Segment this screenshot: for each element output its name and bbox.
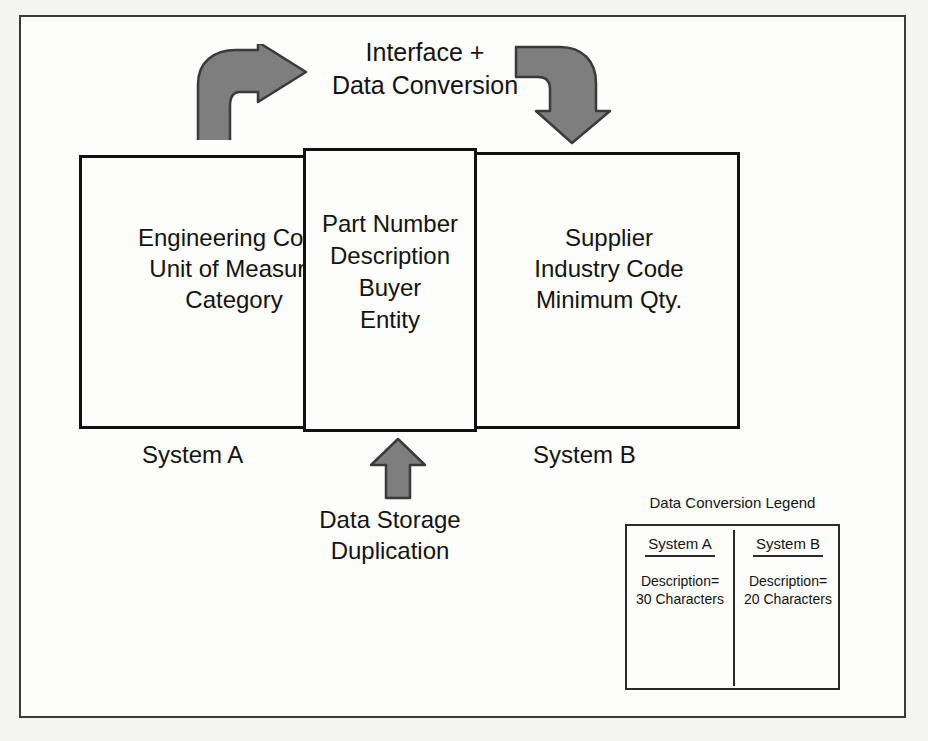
legend-b-line1: Description=: [735, 572, 841, 590]
legend-column-system-b: System B Description= 20 Characters: [735, 526, 841, 609]
legend-b-line2: 20 Characters: [735, 590, 841, 608]
legend-a-line1: Description=: [627, 572, 733, 590]
legend-a-line2: 30 Characters: [627, 590, 733, 608]
interface-label-line1: Interface +: [300, 36, 550, 69]
legend-body-system-a: Description= 30 Characters: [627, 572, 733, 609]
shared-field-3: Entity: [303, 304, 477, 336]
shared-field-0: Part Number: [303, 208, 477, 240]
system-b-field-list: Supplier Industry Code Minimum Qty.: [478, 222, 740, 316]
legend-box: System A Description= 30 Characters Syst…: [625, 524, 840, 690]
legend-header-system-a: System A: [645, 535, 714, 557]
legend-column-system-a: System A Description= 30 Characters: [627, 526, 733, 609]
legend-body-system-b: Description= 20 Characters: [735, 572, 841, 609]
data-storage-line1: Data Storage: [280, 505, 500, 536]
curved-arrow-down-icon: [514, 35, 614, 145]
interface-label-line2: Data Conversion: [300, 69, 550, 102]
legend-header-system-b: System B: [753, 535, 823, 557]
data-storage-duplication-label: Data Storage Duplication: [280, 505, 500, 566]
diagram-page: Interface + Data Conversion Engineering …: [0, 0, 928, 741]
data-storage-line2: Duplication: [280, 536, 500, 567]
shared-field-2: Buyer: [303, 272, 477, 304]
shared-field-1: Description: [303, 240, 477, 272]
system-b-field-0: Supplier: [478, 222, 740, 253]
system-b-caption: System B: [533, 441, 636, 469]
curved-arrow-right-icon: [196, 44, 308, 140]
interface-conversion-label: Interface + Data Conversion: [300, 36, 550, 101]
arrow-up-icon: [368, 437, 428, 501]
system-b-field-1: Industry Code: [478, 253, 740, 284]
system-b-field-2: Minimum Qty.: [478, 284, 740, 315]
legend-title: Data Conversion Legend: [625, 494, 840, 511]
shared-field-list: Part Number Description Buyer Entity: [303, 208, 477, 336]
system-a-caption: System A: [142, 441, 243, 469]
